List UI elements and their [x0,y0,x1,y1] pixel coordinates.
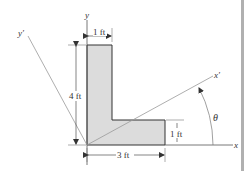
x-axis-label: x [233,140,238,150]
page-edge-bar [241,0,244,171]
dim-label-leg: 1 ft [170,129,183,139]
theta-label: θ [213,112,218,123]
dim-label-stem-width: 1 ft [93,27,106,37]
theta-arc [199,88,213,145]
dim-label-base: 3 ft [117,150,130,160]
dim-label-height: 4 ft [69,91,82,101]
x-prime-label: x′ [213,70,221,80]
diagram-canvas: y x x′ y′ θ 1 ft 4 ft 1 ft 3 ft [0,0,247,171]
y-axis-label: y [84,10,89,20]
y-prime-label: y′ [17,28,25,38]
l-shape [87,45,165,145]
